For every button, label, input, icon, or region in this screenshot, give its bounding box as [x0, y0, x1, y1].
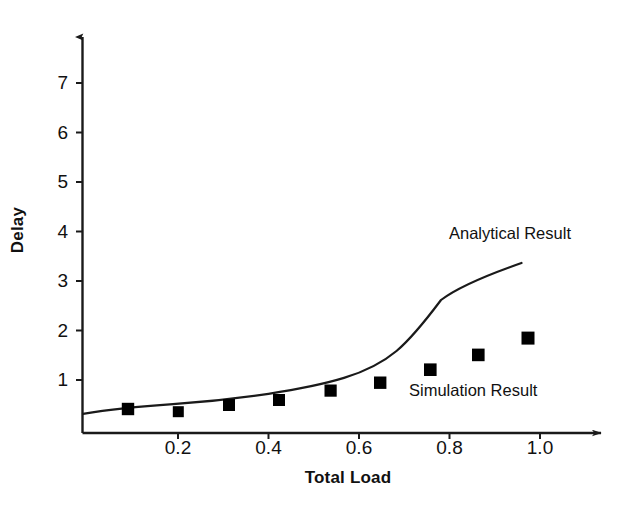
- x-tick-label-0-6: 0.6: [329, 437, 389, 459]
- series-label-simulation: Simulation Result: [409, 381, 537, 400]
- y-tick-label-6: 6: [40, 122, 68, 144]
- y-tick-label-4: 4: [40, 221, 68, 243]
- data-point-marker: [522, 332, 535, 345]
- x-tick-label-0-8: 0.8: [420, 437, 480, 459]
- x-tick-label-0-4: 0.4: [239, 437, 299, 459]
- data-point-marker: [472, 349, 485, 362]
- data-point-marker: [223, 399, 235, 411]
- x-tick-label-1-0: 1.0: [510, 437, 570, 459]
- data-point-marker: [273, 394, 285, 406]
- series-label-analytical: Analytical Result: [449, 224, 571, 243]
- y-tick-label-5: 5: [40, 171, 68, 193]
- x-axis-title: Total Load: [268, 468, 428, 488]
- y-tick-label-1: 1: [40, 369, 68, 391]
- data-point-marker: [374, 377, 386, 389]
- data-point-marker: [173, 406, 184, 417]
- y-tick-label-3: 3: [40, 270, 68, 292]
- data-point-marker: [122, 403, 134, 415]
- y-tick-label-7: 7: [40, 72, 68, 94]
- chart-figure: Delay Total Load 1 2 3 4 5 6 7 0.2 0.4 0…: [0, 0, 634, 516]
- y-tick-label-2: 2: [40, 320, 68, 342]
- y-axis-title: Delay: [8, 198, 28, 262]
- x-tick-label-0-2: 0.2: [148, 437, 208, 459]
- data-point-marker: [424, 363, 437, 376]
- data-point-marker: [325, 385, 337, 397]
